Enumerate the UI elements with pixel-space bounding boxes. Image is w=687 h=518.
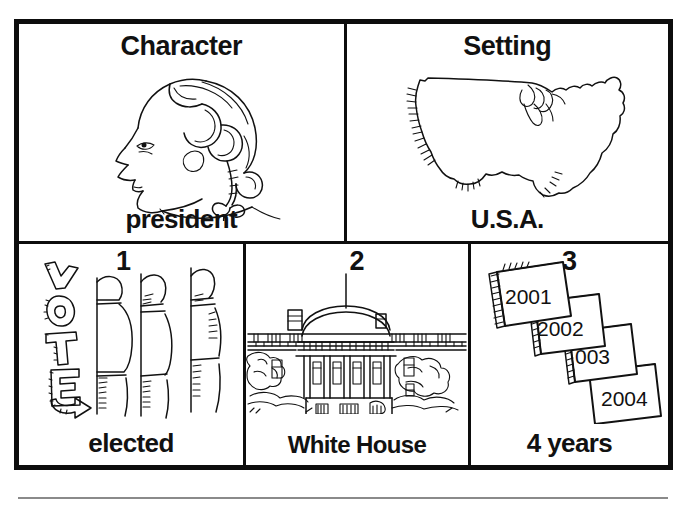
panel-setting[interactable]: Setting <box>344 24 669 241</box>
panel-white-house-caption: White House <box>246 431 468 459</box>
voting-booths-icon <box>29 256 234 421</box>
vote-sign-letters <box>44 262 80 406</box>
calendar-year-4: 2004 <box>601 387 648 410</box>
usa-map-outline-icon <box>400 68 630 213</box>
panel-elected[interactable]: 1 <box>19 244 243 465</box>
george-washington-profile-icon <box>74 66 304 221</box>
panel-elected-caption: elected <box>19 428 243 459</box>
curved-arrow-icon <box>51 398 91 418</box>
panel-character-heading: Character <box>19 31 344 62</box>
panel-grid: Character <box>19 24 668 465</box>
panel-setting-heading: Setting <box>347 31 669 62</box>
panel-white-house[interactable]: 2 <box>243 244 468 465</box>
panel-four-years[interactable]: 3 2004 <box>468 244 668 465</box>
panel-four-years-caption: 4 years <box>471 428 668 459</box>
worksheet-page: Character <box>0 0 687 518</box>
bottom-divider-rule <box>18 497 668 499</box>
calendar-year-1: 2001 <box>505 285 552 308</box>
panel-setting-caption: U.S.A. <box>347 204 669 235</box>
stacked-calendars-icon: 2004 <box>479 254 668 424</box>
voting-booth-3 <box>191 268 221 412</box>
voting-booth-1 <box>97 276 132 415</box>
worksheet-frame: Character <box>14 19 673 470</box>
panel-row-bottom: 1 <box>19 241 668 465</box>
voting-booth-2 <box>141 274 172 418</box>
panel-row-top: Character <box>19 24 668 241</box>
white-house-building-icon <box>246 272 468 414</box>
panel-character-caption: president <box>19 204 344 235</box>
calendar-page-2001: 2001 <box>489 262 571 328</box>
panel-character[interactable]: Character <box>19 24 344 241</box>
